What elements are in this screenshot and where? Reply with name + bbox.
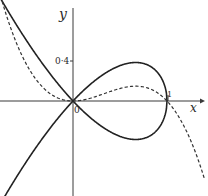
- y-tick-label: 0·4: [55, 56, 70, 66]
- y-axis-label: y: [58, 6, 68, 22]
- origin-label: 0: [74, 105, 80, 115]
- x-axis-label: x: [190, 101, 197, 115]
- plot-area: y 0·4 0 1 x: [0, 0, 208, 196]
- x-axis-arrow-icon: [200, 99, 205, 104]
- solid-curve: [0, 0, 167, 196]
- dashed-curve: [0, 0, 205, 179]
- x-tick-label: 1: [167, 90, 172, 99]
